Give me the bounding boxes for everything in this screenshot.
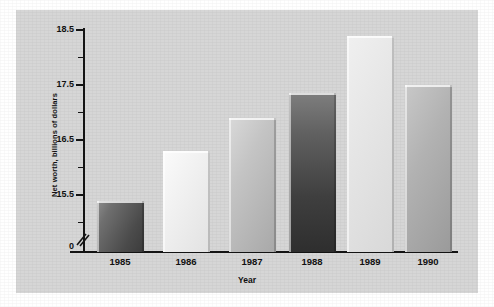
bar-right-shadow	[450, 85, 452, 252]
y-axis-minor-tick	[78, 112, 84, 113]
bar-right-shadow	[392, 36, 394, 253]
bar[interactable]	[347, 36, 394, 253]
y-axis-minor-tick	[78, 222, 84, 223]
y-axis-tick	[76, 194, 84, 196]
bar-top-highlight	[405, 85, 452, 87]
bar-left-highlight	[229, 118, 231, 252]
bar-left-highlight	[347, 36, 349, 253]
y-axis-tick-label-zero: 0	[40, 241, 74, 251]
y-axis-tick	[76, 29, 84, 31]
x-axis-tick-label: 1987	[222, 256, 282, 267]
bar-fill	[289, 93, 336, 252]
bar[interactable]	[97, 201, 144, 253]
bar-fill	[405, 85, 452, 252]
bar-right-shadow	[142, 201, 144, 253]
bar-top-highlight	[289, 93, 336, 95]
bar[interactable]	[229, 118, 276, 252]
figure: Net worth, billions of dollars 18.517.51…	[0, 0, 494, 307]
y-axis-tick	[76, 84, 84, 86]
y-axis-tick-labels: 18.517.516.515.50	[36, 0, 74, 307]
bar-top-highlight	[163, 151, 210, 153]
bar[interactable]	[405, 85, 452, 252]
bar-top-highlight	[229, 118, 276, 120]
bar-fill	[347, 36, 394, 253]
bar-top-highlight	[97, 201, 144, 203]
y-axis-tick-label: 16.5	[40, 134, 74, 144]
bar-top-highlight	[347, 36, 394, 38]
bar-fill	[163, 151, 210, 252]
bar-fill	[97, 201, 144, 253]
bar-left-highlight	[289, 93, 291, 252]
y-axis-tick	[76, 139, 84, 141]
y-axis-tick-label: 18.5	[40, 24, 74, 34]
bar[interactable]	[289, 93, 336, 252]
y-axis-minor-tick	[78, 57, 84, 58]
x-axis-tick-label: 1988	[282, 256, 342, 267]
bar-fill	[229, 118, 276, 252]
x-axis-tick-label: 1985	[90, 256, 150, 267]
bar-right-shadow	[334, 93, 336, 252]
x-axis-tick-label: 1989	[340, 256, 400, 267]
x-axis-tick-label: 1986	[156, 256, 216, 267]
x-axis-tick-label: 1990	[398, 256, 458, 267]
x-axis-title: Year	[0, 275, 494, 285]
y-axis-minor-tick	[78, 167, 84, 168]
bar-left-highlight	[97, 201, 99, 253]
bar[interactable]	[163, 151, 210, 252]
y-axis-tick-label: 17.5	[40, 79, 74, 89]
y-axis-tick-label: 15.5	[40, 189, 74, 199]
bar-right-shadow	[208, 151, 210, 252]
bar-right-shadow	[274, 118, 276, 252]
bar-left-highlight	[405, 85, 407, 252]
bar-left-highlight	[163, 151, 165, 252]
